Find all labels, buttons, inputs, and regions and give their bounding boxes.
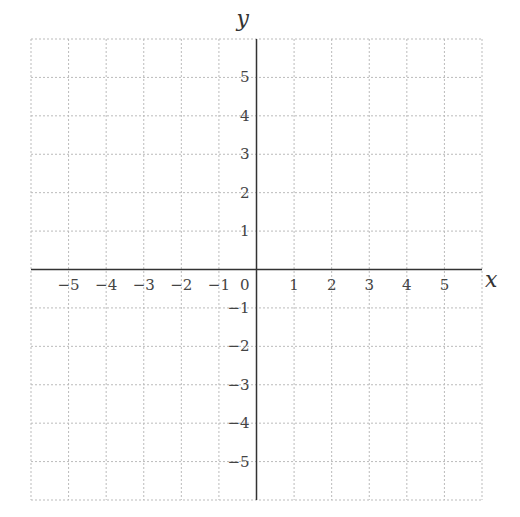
y-tick-label: 2 [240, 184, 250, 202]
axes [31, 39, 482, 500]
y-axis-label: y [236, 6, 250, 31]
y-tick-label: 3 [240, 145, 250, 163]
x-tick-label: 5 [440, 276, 450, 294]
x-tick-label: 1 [289, 276, 299, 294]
y-tick-label: −2 [227, 337, 249, 355]
x-tick-label: −1 [208, 276, 230, 294]
y-tick-label: −1 [227, 299, 249, 317]
origin-label: 0 [240, 276, 250, 294]
x-tick-label: 4 [402, 276, 412, 294]
y-tick-label: 1 [240, 222, 250, 240]
x-axis-label: x [485, 267, 498, 292]
x-tick-labels: −5−4−3−2−112345 [58, 276, 450, 294]
y-tick-label: 4 [240, 107, 250, 125]
coordinate-plane: −5−4−3−2−112345 −5−4−3−2−112345 0 x y [0, 0, 520, 517]
x-tick-label: 3 [364, 276, 374, 294]
x-tick-label: −4 [95, 276, 117, 294]
y-tick-label: −4 [227, 414, 249, 432]
x-tick-label: −2 [170, 276, 192, 294]
y-tick-label: 5 [240, 68, 250, 86]
x-tick-label: −3 [133, 276, 155, 294]
x-tick-label: −5 [58, 276, 80, 294]
x-tick-label: 2 [327, 276, 337, 294]
y-tick-label: −5 [227, 453, 249, 471]
y-tick-label: −3 [227, 376, 249, 394]
